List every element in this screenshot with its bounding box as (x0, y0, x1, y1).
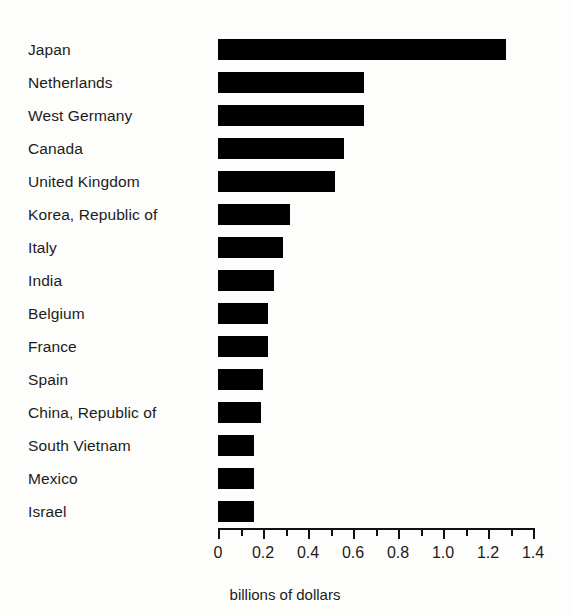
bar-category-label: Italy (28, 231, 57, 264)
x-axis-minor-tick (241, 528, 243, 536)
x-axis-major-tick (263, 528, 265, 539)
bar-category-label: Canada (28, 132, 83, 165)
bar-track (218, 495, 548, 528)
x-axis-major-tick (218, 528, 220, 539)
bar-category-label: Israel (28, 495, 67, 528)
bar (218, 336, 268, 357)
x-axis-major-tick (443, 528, 445, 539)
chart-plot-area: JapanNetherlandsWest GermanyCanadaUnited… (0, 33, 570, 528)
bar-track (218, 330, 548, 363)
bar-track (218, 33, 548, 66)
bar-chart-figure: JapanNetherlandsWest GermanyCanadaUnited… (0, 0, 570, 616)
bar-category-label: Japan (28, 33, 71, 66)
x-axis-tick-label: 0.4 (297, 543, 319, 563)
bar (218, 72, 364, 93)
bar-category-label: Belgium (28, 297, 85, 330)
bar-row: South Vietnam (0, 429, 570, 462)
bar (218, 237, 283, 258)
bar (218, 303, 268, 324)
bar (218, 369, 263, 390)
x-axis-tick-label: 0.8 (387, 543, 409, 563)
bar-category-label: South Vietnam (28, 429, 131, 462)
bar (218, 105, 364, 126)
bar-row: Italy (0, 231, 570, 264)
x-axis-minor-tick (331, 528, 333, 536)
x-axis-major-tick (353, 528, 355, 539)
bar (218, 501, 254, 522)
bar-row: Korea, Republic of (0, 198, 570, 231)
bar-track (218, 264, 548, 297)
bar (218, 270, 274, 291)
bar-row: Israel (0, 495, 570, 528)
x-axis-tick-label: 1.0 (432, 543, 454, 563)
x-axis-tick-label: 0.2 (252, 543, 274, 563)
bar-row: Canada (0, 132, 570, 165)
bar-track (218, 462, 548, 495)
bar-category-label: India (28, 264, 62, 297)
bar (218, 39, 506, 60)
bar-row: Japan (0, 33, 570, 66)
x-axis-minor-tick (466, 528, 468, 536)
bar-category-label: Korea, Republic of (28, 198, 157, 231)
bar (218, 402, 261, 423)
bar (218, 204, 290, 225)
x-axis-major-tick (398, 528, 400, 539)
bar-category-label: China, Republic of (28, 396, 156, 429)
x-axis-minor-tick (511, 528, 513, 536)
bar (218, 435, 254, 456)
bar-category-label: West Germany (28, 99, 132, 132)
bar-row: China, Republic of (0, 396, 570, 429)
x-axis-tick-label: 1.4 (522, 543, 544, 563)
bar-row: France (0, 330, 570, 363)
x-axis-tick-label: 1.2 (477, 543, 499, 563)
bar (218, 138, 344, 159)
x-axis-tick-label: 0 (214, 543, 223, 563)
bar-track (218, 297, 548, 330)
x-axis-title: billions of dollars (0, 586, 570, 603)
bar-track (218, 99, 548, 132)
x-axis-tick-labels: 00.20.40.60.81.01.21.4 (0, 543, 570, 569)
bar-track (218, 231, 548, 264)
x-axis-major-tick (308, 528, 310, 539)
bar-track (218, 363, 548, 396)
x-axis-major-tick (488, 528, 490, 539)
bar-category-label: France (28, 330, 77, 363)
bar-row: Mexico (0, 462, 570, 495)
x-axis-minor-tick (376, 528, 378, 536)
bar-track (218, 429, 548, 462)
bar-track (218, 66, 548, 99)
bar-track (218, 198, 548, 231)
bar-row: Netherlands (0, 66, 570, 99)
bar-row: India (0, 264, 570, 297)
bar-category-label: Netherlands (28, 66, 113, 99)
bar-track (218, 132, 548, 165)
x-axis-major-tick (533, 528, 535, 539)
bar-row: Belgium (0, 297, 570, 330)
bar-row: West Germany (0, 99, 570, 132)
bar-track (218, 165, 548, 198)
bar-category-label: United Kingdom (28, 165, 140, 198)
x-axis-minor-tick (286, 528, 288, 536)
bar-track (218, 396, 548, 429)
x-axis-tick-label: 0.6 (342, 543, 364, 563)
bar-row: United Kingdom (0, 165, 570, 198)
bar-category-label: Spain (28, 363, 68, 396)
bar-row: Spain (0, 363, 570, 396)
bar (218, 171, 335, 192)
bar-category-label: Mexico (28, 462, 78, 495)
bar (218, 468, 254, 489)
x-axis-minor-tick (421, 528, 423, 536)
